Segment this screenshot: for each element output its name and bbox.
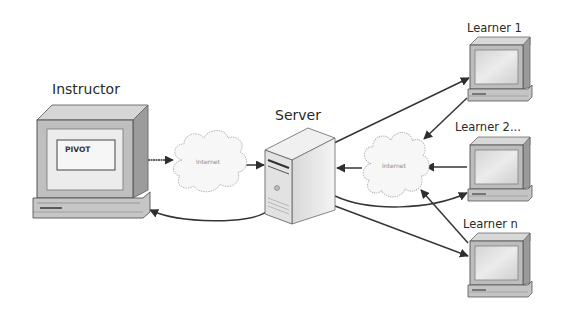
instructor-node: Instructor PIVOT <box>33 81 150 218</box>
instructor-label: Instructor <box>52 81 120 97</box>
network-diagram: Instructor PIVOT Internet Server <box>0 0 571 312</box>
learner2-label: Learner 2... <box>455 120 521 134</box>
instructor-computer-icon: PIVOT <box>33 105 150 218</box>
learner2-node: Learner 2... <box>455 120 532 201</box>
server-node: Server <box>265 107 335 224</box>
learner1-node: Learner 1 <box>467 21 532 101</box>
edge-server-to-learner2 <box>335 193 467 207</box>
server-tower-icon <box>265 128 335 224</box>
edge-learnern-to-cloud <box>421 190 468 243</box>
server-label: Server <box>275 107 321 123</box>
learnern-node: Learner n <box>463 217 532 297</box>
cloud-right-label: Internet <box>382 162 406 169</box>
learnern-label: Learner n <box>463 217 518 231</box>
learner2-computer-icon <box>468 137 532 201</box>
learnern-computer-icon <box>468 233 532 297</box>
learner1-label: Learner 1 <box>467 21 522 35</box>
internet-cloud-right: Internet <box>363 133 429 197</box>
edge-server-to-learnern <box>335 206 468 256</box>
pivot-screen-text: PIVOT <box>65 145 91 154</box>
cloud-left-label: Internet <box>196 158 220 165</box>
edge-server-to-instructor <box>150 210 266 221</box>
learner1-computer-icon <box>468 37 532 101</box>
internet-cloud-left: Internet <box>173 131 246 192</box>
